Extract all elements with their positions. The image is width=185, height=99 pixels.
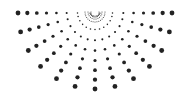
dot: [101, 38, 103, 40]
dot: [90, 17, 91, 18]
dot: [132, 12, 135, 15]
dot: [60, 30, 63, 33]
dot: [122, 12, 124, 14]
dot: [54, 76, 59, 81]
dot: [104, 15, 105, 16]
dot: [56, 21, 59, 24]
dot: [93, 78, 97, 82]
dot: [149, 25, 153, 29]
dot: [74, 31, 76, 33]
dot: [38, 64, 43, 69]
dot: [131, 21, 134, 24]
dot: [90, 14, 91, 15]
dot: [127, 68, 131, 72]
dot: [93, 59, 96, 62]
dot: [88, 12, 89, 13]
dot: [73, 84, 78, 89]
dot: [85, 12, 86, 13]
dot: [151, 44, 155, 48]
dot: [87, 38, 89, 40]
dot: [55, 12, 58, 15]
dot: [69, 52, 72, 55]
dot: [64, 61, 68, 65]
dot: [59, 68, 63, 72]
dot: [108, 66, 112, 70]
dot: [99, 12, 100, 13]
dot: [158, 27, 162, 31]
dot: [81, 57, 84, 60]
dot: [59, 45, 62, 48]
dot: [113, 44, 116, 47]
dot: [43, 39, 47, 43]
dot: [98, 15, 99, 16]
dot: [90, 28, 92, 30]
dot: [45, 11, 48, 14]
dot: [144, 39, 148, 43]
dot: [131, 76, 136, 81]
dot: [99, 14, 100, 15]
dot: [37, 25, 41, 29]
dot: [147, 64, 152, 69]
dot: [93, 21, 94, 22]
dot: [66, 12, 68, 14]
dot: [18, 30, 23, 35]
dot: [121, 18, 123, 20]
dot: [35, 11, 39, 15]
dot: [134, 51, 138, 55]
dot: [75, 75, 79, 79]
dot: [86, 17, 87, 18]
dot: [108, 35, 110, 37]
dot: [141, 58, 145, 62]
dot: [74, 44, 77, 47]
dot: [96, 21, 97, 22]
dot: [98, 14, 99, 15]
dot: [110, 75, 114, 79]
dot: [84, 48, 87, 51]
dot: [103, 17, 104, 18]
dot: [105, 12, 106, 13]
dot: [102, 19, 103, 20]
dot: [91, 14, 92, 15]
dot: [93, 68, 97, 72]
dot: [89, 20, 90, 21]
dot: [95, 22, 96, 23]
dot: [104, 13, 105, 14]
dot: [100, 15, 101, 16]
dot: [92, 18, 93, 19]
dot: [170, 11, 175, 16]
dot: [161, 11, 165, 15]
dot: [79, 20, 81, 22]
dot: [101, 13, 102, 14]
dot: [93, 15, 94, 16]
dot: [100, 20, 101, 21]
dot: [85, 13, 86, 14]
dot: [69, 25, 71, 27]
dot: [99, 28, 101, 30]
dot: [97, 15, 98, 16]
dot: [111, 16, 113, 18]
dot: [106, 57, 109, 60]
dot: [88, 13, 89, 14]
dot: [104, 48, 107, 51]
dot: [127, 30, 130, 33]
dot: [151, 11, 155, 15]
dot: [16, 11, 21, 16]
dot: [51, 35, 54, 38]
dot: [34, 44, 38, 48]
dot: [94, 39, 96, 41]
dot: [135, 35, 138, 38]
dot: [95, 16, 96, 17]
dot: [99, 13, 100, 14]
dot: [80, 35, 82, 37]
dot: [97, 18, 98, 19]
dot: [82, 24, 84, 26]
dot: [47, 23, 50, 26]
dot: [91, 21, 92, 22]
dot: [103, 26, 105, 28]
dot: [77, 16, 79, 18]
sunburst-dot-graphic: [0, 0, 185, 99]
dot: [142, 11, 145, 14]
dot: [114, 31, 116, 33]
dot: [113, 84, 118, 89]
dot: [118, 52, 121, 55]
